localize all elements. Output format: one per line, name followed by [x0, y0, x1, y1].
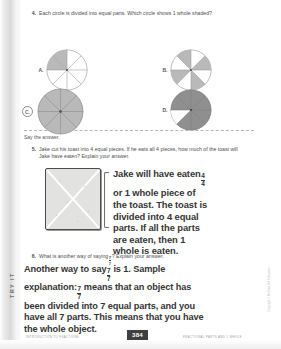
question-6-answer: Another way to say77 is 1. Sample explan…: [24, 264, 260, 335]
fraction-numerator: 4: [201, 173, 204, 179]
choice-b-circle-eighths-4-shaded-alternating: [170, 49, 212, 91]
choice-a-label: A.: [36, 67, 46, 73]
question-4: 4. Each circle is divided into equal par…: [27, 10, 232, 17]
answer-line-text: means that an object has: [84, 282, 191, 292]
answer-line-text: explanation:: [24, 282, 77, 292]
vertical-copyright-credit: Copyright © McGraw-Hill Education: [268, 252, 271, 328]
toast-diagonal-cut-lines: [46, 169, 100, 229]
answer-line: are eaten, then 1: [113, 234, 273, 246]
question-5-prompt: Jake cut his toast into 4 equal pieces. …: [39, 146, 242, 161]
answer-line: parts. If all the parts: [113, 222, 273, 234]
choice-d-label: D.: [160, 107, 170, 113]
fraction-numerator: 7: [107, 268, 110, 274]
answer-line: been divided into 7 equal parts, and you: [24, 301, 260, 312]
toast-figure: [45, 168, 101, 230]
choice-d[interactable]: D.: [160, 89, 212, 131]
choice-b-label: B.: [160, 67, 170, 73]
answer-line: Jake will have eaten44: [113, 168, 273, 187]
question-5-answer: Jake will have eaten44 or 1 whole piece …: [113, 168, 273, 257]
section-divider: [24, 130, 254, 131]
answer-line: divided into 4 equal: [113, 211, 273, 223]
choice-c-label-selected: C.: [22, 106, 33, 117]
answer-line: explanation:77 means that an object has: [24, 282, 260, 300]
question-5: 5. Jake cut his toast into 4 equal piece…: [27, 146, 242, 161]
answer-line: Another way to say77 is 1. Sample: [24, 264, 260, 282]
fraction-denominator: 4: [201, 180, 204, 188]
choice-c-circle-eighths-all-shaded: [37, 88, 84, 135]
page-bottom-shadow: [0, 340, 281, 349]
choice-a-circle-eighths-2-shaded: [46, 49, 88, 91]
fraction-seven-sevenths: 77: [77, 286, 80, 300]
question-6-prompt-after: ? Explain your answer.: [112, 253, 164, 259]
question-6-prompt-before: What is another way of saying: [39, 253, 108, 259]
choice-a[interactable]: A.: [36, 49, 88, 91]
footer-chapter-label: INTRODUCTION TO FRACTIONS: [26, 335, 79, 339]
answer-line-text: Jake will have eaten: [113, 168, 201, 179]
question-4-prompt: Each circle is divided into equal parts.…: [39, 10, 212, 17]
choice-d-circle-eighths-7-shaded: [170, 89, 212, 131]
fraction-seven-sevenths: 77: [107, 268, 110, 282]
answer-line: or 1 whole piece of: [113, 187, 273, 199]
page-number-badge: 384: [127, 330, 148, 340]
try-it-side-tab: TRY IT: [9, 260, 15, 310]
question-6-number: 6.: [27, 253, 39, 260]
say-the-answer-instruction: Say the answer.: [24, 134, 60, 140]
fraction-denominator: 7: [77, 293, 80, 301]
choice-b[interactable]: B.: [160, 49, 212, 91]
question-5-number: 5.: [27, 146, 39, 153]
answer-line-text: is 1. Sample: [113, 264, 165, 274]
choice-c[interactable]: C.: [22, 88, 84, 135]
worksheet-page: 4. Each circle is divided into equal par…: [0, 0, 281, 349]
question-4-number: 4.: [27, 10, 39, 17]
worksheet-content: 4. Each circle is divided into equal par…: [0, 0, 281, 349]
fraction-numerator: 7: [77, 286, 80, 292]
fraction-denominator: 7: [107, 275, 110, 283]
toast-square-divided-fourths: [45, 168, 101, 230]
answer-line-text: Another way to say: [24, 264, 106, 274]
answer-line: have all 7 parts. This means that you ha…: [24, 312, 260, 323]
footer-lesson-label: FRACTIONAL PARTS AND 1 WHOLE: [183, 335, 242, 339]
answer-line: the toast. The toast is: [113, 199, 273, 211]
fraction-four-fourths: 44: [201, 173, 204, 187]
answer-bracket-q5: [104, 172, 109, 228]
